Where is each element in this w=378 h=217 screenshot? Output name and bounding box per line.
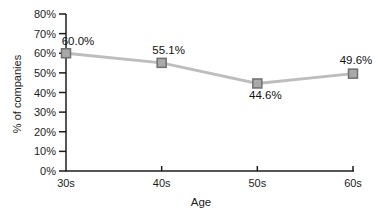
y-tick-label: 80% (34, 8, 56, 20)
data-point-label: 44.6% (249, 89, 282, 101)
x-axis-title: Age (66, 196, 336, 208)
data-point-label: 49.6% (340, 54, 373, 66)
y-tick-label: 50% (34, 67, 56, 79)
y-tick-label: 70% (34, 28, 56, 40)
y-tick-label: 20% (34, 126, 56, 138)
y-tick-label: 10% (34, 145, 56, 157)
x-tick-label: 30s (57, 177, 75, 189)
data-point-marker (62, 49, 71, 58)
y-tick-label: 0% (40, 165, 56, 177)
x-tick-label: 60s (344, 177, 362, 189)
y-tick-label: 60% (34, 47, 56, 59)
y-tick-label: 30% (34, 106, 56, 118)
data-point-label: 55.1% (152, 44, 185, 56)
y-tick-label: 40% (34, 87, 56, 99)
series-line (66, 53, 353, 83)
x-tick-label: 50s (248, 177, 266, 189)
data-point-marker (157, 58, 166, 67)
data-point-label: 60.0% (62, 35, 95, 47)
data-point-marker (349, 69, 358, 78)
data-point-marker (253, 79, 262, 88)
plot-area: 0%10%20%30%40%50%60%70%80%30s40s50s60s60… (0, 0, 378, 217)
y-axis-title: % of companies (11, 55, 23, 133)
x-tick-label: 40s (153, 177, 171, 189)
line-chart-figure: 0%10%20%30%40%50%60%70%80%30s40s50s60s60… (0, 0, 378, 217)
